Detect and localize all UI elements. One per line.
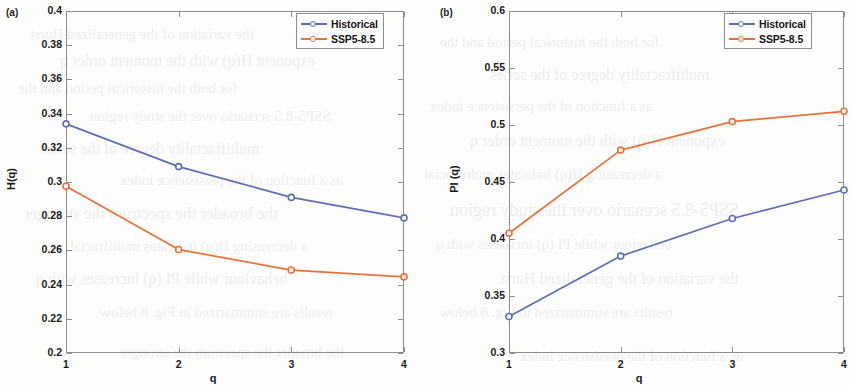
y-tickmark xyxy=(838,182,843,183)
x-tickmark xyxy=(509,347,510,352)
y-tick-label: 0.28 xyxy=(20,209,62,221)
panel-a-x-axis-title: q xyxy=(0,372,426,384)
x-tick-label: 3 xyxy=(712,358,752,370)
x-tickmark xyxy=(621,12,622,17)
series-marker xyxy=(729,215,735,221)
series-marker xyxy=(288,194,294,200)
y-tickmark xyxy=(838,68,843,69)
x-tickmark xyxy=(404,12,405,17)
x-tickmark xyxy=(66,347,67,352)
y-tickmark xyxy=(838,353,843,354)
x-tickmark xyxy=(291,347,292,352)
y-tickmark xyxy=(67,182,72,183)
y-tickmark xyxy=(398,182,403,183)
y-tick-label: 0.5 xyxy=(463,118,505,130)
series-marker xyxy=(729,119,735,125)
x-tickmark xyxy=(509,12,510,17)
y-tickmark xyxy=(398,250,403,251)
y-tick-label: 0.22 xyxy=(20,312,62,324)
series-marker xyxy=(841,108,847,114)
series-line xyxy=(509,190,844,317)
x-tick-label: 1 xyxy=(489,358,529,370)
series-marker xyxy=(176,247,182,253)
series-marker xyxy=(618,147,624,153)
y-tickmark xyxy=(67,216,72,217)
y-tickmark xyxy=(67,11,72,12)
y-tick-label: 0.24 xyxy=(20,278,62,290)
y-tick-label: 0.36 xyxy=(20,72,62,84)
y-tickmark xyxy=(398,114,403,115)
y-tickmark xyxy=(398,285,403,286)
legend-label: Historical xyxy=(759,18,806,30)
x-tickmark xyxy=(621,347,622,352)
y-tickmark xyxy=(510,182,515,183)
x-tick-label: 2 xyxy=(601,358,641,370)
legend-entry[interactable]: Historical xyxy=(729,17,806,30)
legend-swatch-icon xyxy=(729,34,755,44)
y-tickmark xyxy=(398,79,403,80)
legend-label: Historical xyxy=(331,18,378,30)
panel-a: (a) 0.20.220.240.260.280.30.320.340.360.… xyxy=(0,0,426,390)
x-tick-label: 4 xyxy=(384,358,424,370)
y-tickmark xyxy=(67,319,72,320)
legend-swatch-icon xyxy=(301,19,327,29)
series-marker xyxy=(401,274,407,280)
y-tick-label: 0.2 xyxy=(20,346,62,358)
y-tick-label: 0.6 xyxy=(463,4,505,16)
panel-b-series-layer xyxy=(426,0,852,390)
y-tickmark xyxy=(398,45,403,46)
x-tickmark xyxy=(66,12,67,17)
y-tickmark xyxy=(838,125,843,126)
legend-swatch-icon xyxy=(729,19,755,29)
x-tickmark xyxy=(844,12,845,17)
x-tickmark xyxy=(291,12,292,17)
y-tickmark xyxy=(510,353,515,354)
series-line xyxy=(66,186,404,277)
legend-label: SSP5-8.5 xyxy=(331,33,375,45)
panel-b-y-axis-title: PI (q) xyxy=(448,139,460,219)
y-tickmark xyxy=(67,250,72,251)
series-marker xyxy=(506,314,512,320)
y-tick-label: 0.4 xyxy=(463,232,505,244)
y-tick-label: 0.45 xyxy=(463,175,505,187)
y-tickmark xyxy=(398,216,403,217)
y-tickmark xyxy=(67,353,72,354)
legend-label: SSP5-8.5 xyxy=(759,33,803,45)
panel-b-x-axis-title: q xyxy=(426,372,852,384)
y-tickmark xyxy=(398,11,403,12)
y-tickmark xyxy=(67,114,72,115)
series-marker xyxy=(176,164,182,170)
series-line xyxy=(509,111,844,233)
x-tickmark xyxy=(179,12,180,17)
y-tickmark xyxy=(838,296,843,297)
x-tick-label: 4 xyxy=(824,358,852,370)
x-tickmark xyxy=(179,347,180,352)
y-tickmark xyxy=(510,239,515,240)
legend-entry[interactable]: SSP5-8.5 xyxy=(729,32,806,45)
panel-a-series-layer xyxy=(0,0,426,390)
panel-b-legend: HistoricalSSP5-8.5 xyxy=(724,13,812,49)
y-tickmark xyxy=(510,68,515,69)
series-marker xyxy=(63,121,69,127)
y-tick-label: 0.4 xyxy=(20,4,62,16)
series-marker xyxy=(288,267,294,273)
y-tickmark xyxy=(398,148,403,149)
y-tickmark xyxy=(510,125,515,126)
y-tickmark xyxy=(67,79,72,80)
legend-entry[interactable]: Historical xyxy=(301,17,378,30)
legend-entry[interactable]: SSP5-8.5 xyxy=(301,32,378,45)
y-tickmark xyxy=(838,11,843,12)
y-tick-label: 0.35 xyxy=(463,289,505,301)
panel-a-legend: HistoricalSSP5-8.5 xyxy=(296,13,384,49)
y-tickmark xyxy=(398,353,403,354)
y-tick-label: 0.32 xyxy=(20,141,62,153)
series-marker xyxy=(841,187,847,193)
y-tick-label: 0.3 xyxy=(20,175,62,187)
panel-a-y-axis-title: H(q) xyxy=(5,139,17,219)
y-tick-label: 0.26 xyxy=(20,243,62,255)
x-tickmark xyxy=(732,347,733,352)
y-tickmark xyxy=(67,45,72,46)
x-tickmark xyxy=(844,347,845,352)
y-tickmark xyxy=(67,148,72,149)
series-line xyxy=(66,124,404,218)
